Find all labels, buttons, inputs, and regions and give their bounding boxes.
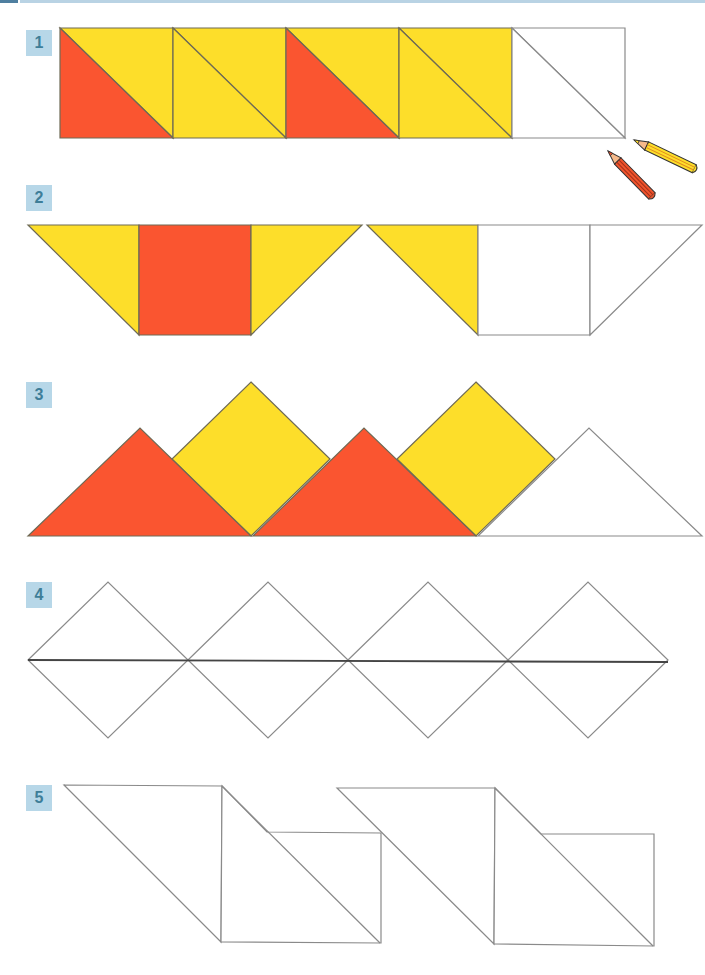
blank-shape[interactable] <box>64 785 222 942</box>
red-pencil-icon <box>605 148 657 201</box>
pencil-decoration <box>605 136 699 201</box>
blank-shape[interactable] <box>590 225 702 335</box>
yellow-pencil-icon <box>632 136 698 174</box>
exercise-number-badge: 5 <box>26 785 52 811</box>
blank-shape[interactable] <box>478 225 590 335</box>
exercise-number-badge: 4 <box>26 582 52 608</box>
exercise-number-badge: 1 <box>26 30 52 56</box>
exercise-1-figure <box>60 28 625 138</box>
blank-shape[interactable] <box>508 582 668 738</box>
yellow-shape <box>367 225 478 335</box>
yellow-shape <box>28 225 139 335</box>
exercise-2-figure <box>28 225 702 335</box>
exercise-number-badge: 2 <box>26 185 52 211</box>
exercise-canvas <box>0 0 705 975</box>
exercise-5-figure <box>64 785 654 946</box>
red-shape <box>139 225 251 335</box>
exercise-number-badge: 3 <box>26 382 52 408</box>
blank-shape[interactable] <box>348 582 508 738</box>
yellow-shape <box>251 225 362 335</box>
shapes-layer <box>28 28 702 946</box>
exercise-3-figure <box>28 382 702 536</box>
exercise-4-figure <box>28 582 668 738</box>
